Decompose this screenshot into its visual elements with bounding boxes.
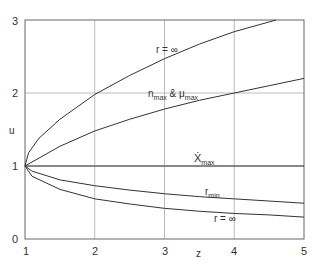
- chart: 3 2 1 0 u 1 2 3 4 5 z r = ∞ nmax & μmax …: [0, 0, 320, 270]
- annotation-xdot-max: Ẋmax: [194, 152, 215, 166]
- ytick-3: 3: [12, 15, 18, 27]
- annotation-nmax-mumax: nmax & μmax: [148, 88, 199, 101]
- xtick-1: 1: [23, 245, 29, 257]
- ytick-1: 1: [12, 160, 18, 172]
- annotation-r-inf-upper: r = ∞: [156, 44, 178, 55]
- xtick-4: 4: [231, 245, 237, 257]
- xtick-3: 3: [162, 245, 168, 257]
- xtick-5: 5: [301, 245, 307, 257]
- ytick-2: 2: [12, 87, 18, 99]
- ytick-0: 0: [12, 233, 18, 245]
- x-axis-label: z: [196, 248, 201, 259]
- xtick-2: 2: [92, 245, 98, 257]
- chart-svg: 3 2 1 0 u 1 2 3 4 5 z r = ∞ nmax & μmax …: [0, 0, 320, 270]
- annotation-r-inf-lower: r = ∞: [214, 213, 236, 224]
- y-axis-label: u: [9, 125, 15, 136]
